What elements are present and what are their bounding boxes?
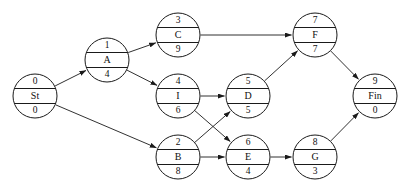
node-fin[interactable]: 9Fin0 [353,74,397,118]
node-latest-time: 0 [373,105,378,115]
edge-f-to-fin [331,51,359,79]
node-label: F [312,29,318,40]
node-c[interactable]: 3C9 [156,13,200,57]
node-latest-time: 8 [176,166,181,176]
node-latest-time: 4 [246,166,251,176]
node-latest-time: 6 [176,105,181,115]
node-label: Fin [368,90,381,101]
network-diagram: 0St01A43C94I62B85D56E47F78G39Fin0 [0,0,409,193]
node-label: E [245,151,251,162]
node-earliest-time: 9 [373,76,378,86]
node-latest-time: 4 [105,69,110,79]
node-earliest-time: 1 [105,40,110,50]
node-label: St [31,90,40,101]
node-earliest-time: 7 [313,15,318,25]
node-label: I [176,90,179,101]
edge-i-to-e [195,111,230,142]
node-label: D [244,90,251,101]
node-earliest-time: 5 [246,76,251,86]
edge-st-to-b [56,105,157,148]
node-earliest-time: 8 [313,137,318,147]
edge-st-to-a [55,71,86,86]
node-label: A [103,54,111,65]
edge-a-to-c [128,43,156,53]
node-latest-time: 5 [246,105,251,115]
node-f[interactable]: 7F7 [293,13,337,57]
node-latest-time: 0 [33,105,38,115]
node-d[interactable]: 5D5 [226,74,270,118]
edge-a-to-i [127,70,157,85]
node-earliest-time: 6 [246,137,251,147]
node-g[interactable]: 8G3 [293,135,337,179]
node-label: B [175,151,182,162]
edge-b-to-d [195,111,230,142]
node-earliest-time: 3 [176,15,181,25]
node-b[interactable]: 2B8 [156,135,200,179]
node-st[interactable]: 0St0 [13,74,57,118]
node-e[interactable]: 6E4 [226,135,270,179]
node-latest-time: 7 [313,44,318,54]
node-label: C [175,29,182,40]
edge-g-to-fin [331,113,359,141]
node-label: G [311,151,318,162]
node-a[interactable]: 1A4 [85,38,129,82]
node-latest-time: 9 [176,44,181,54]
node-i[interactable]: 4I6 [156,74,200,118]
node-earliest-time: 4 [176,76,181,86]
node-earliest-time: 0 [33,76,38,86]
diagram-canvas: 0St01A43C94I62B85D56E47F78G39Fin0 [0,0,409,193]
edge-d-to-f [265,51,298,81]
node-latest-time: 3 [313,166,318,176]
node-earliest-time: 2 [176,137,181,147]
